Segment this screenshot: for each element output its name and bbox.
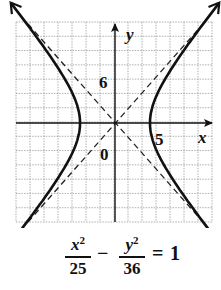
y-variable: y — [125, 235, 133, 254]
y-denominator: 36 — [119, 259, 145, 279]
hyperbola-right-branch — [150, 3, 219, 228]
hyperbola-graph: y x 6 5 0 — [0, 0, 221, 228]
fraction-bar — [65, 256, 91, 258]
x-tick-label: 5 — [155, 130, 164, 149]
y-exponent: 2 — [133, 234, 139, 246]
y-axis-label: y — [124, 25, 134, 44]
x-axis-label: x — [197, 128, 207, 147]
fraction-bar — [119, 256, 145, 258]
hyperbola-equation: x2 25 − y2 36 = 1 — [0, 228, 221, 290]
fraction-y-term: y2 36 — [119, 230, 145, 279]
y-tick-label: 6 — [99, 73, 108, 92]
x-variable: x — [71, 235, 80, 254]
hyperbola-left-branch — [11, 3, 80, 228]
fraction-x-term: x2 25 — [65, 230, 91, 279]
minus-operator: − — [97, 242, 108, 265]
x-exponent: 2 — [80, 234, 86, 246]
rhs-value: 1 — [170, 242, 180, 265]
x-denominator: 25 — [65, 259, 91, 279]
equals-sign: = — [152, 242, 163, 265]
origin-label: 0 — [100, 145, 109, 164]
